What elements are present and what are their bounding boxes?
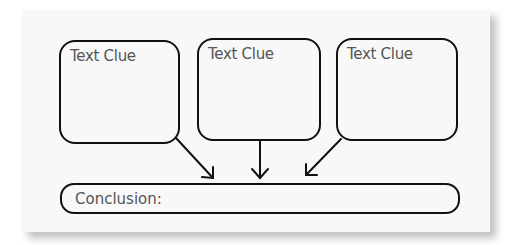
arrow-down-icon (252, 141, 268, 178)
conclusion-box: Conclusion: (60, 183, 460, 214)
conclusion-label: Conclusion: (75, 190, 162, 208)
arrow-down-right-icon (176, 138, 213, 178)
arrow-down-left-icon (306, 139, 341, 175)
